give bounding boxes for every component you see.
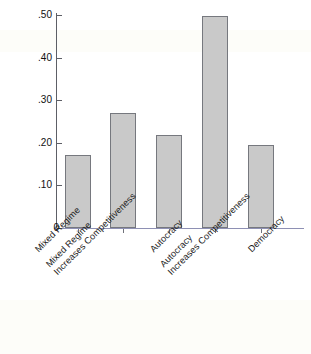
y-tick-label: .20: [26, 138, 52, 148]
y-tick-mark: [57, 185, 62, 186]
y-tick-mark: [57, 100, 62, 101]
bar-chart-figure: Probability of Interstate War .50 .40 .3…: [0, 0, 311, 354]
scan-tint-band: [0, 300, 311, 354]
bar-democracy: [248, 145, 274, 228]
bar-autocracy: [156, 135, 182, 228]
scan-tint-band: [0, 30, 311, 52]
y-tick-label: .50: [26, 10, 52, 20]
y-axis-line: [56, 13, 57, 230]
y-tick-label: .40: [26, 53, 52, 63]
x-tick-mark: [123, 229, 124, 233]
y-tick-mark: [57, 58, 62, 59]
y-tick-mark: [57, 15, 62, 16]
y-tick-label: .30: [26, 95, 52, 105]
y-tick-label: .10: [26, 180, 52, 190]
y-tick-mark: [57, 143, 62, 144]
